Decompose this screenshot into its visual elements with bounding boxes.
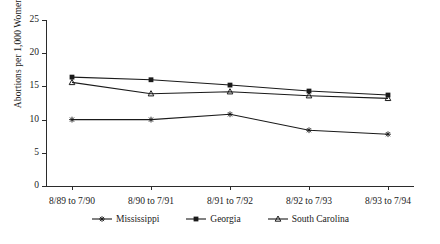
data-point xyxy=(227,111,233,117)
y-tick-label: 25 xyxy=(30,15,40,25)
legend-item-georgia[interactable]: Georgia xyxy=(185,214,240,224)
data-point xyxy=(148,117,154,123)
series-mississippi xyxy=(69,111,391,137)
y-tick-label: 15 xyxy=(30,81,40,91)
x-tick-mark xyxy=(230,186,231,190)
data-point xyxy=(69,79,75,84)
x-tick-label: 8/91 to 7/92 xyxy=(207,196,253,206)
series-south-carolina xyxy=(69,79,391,100)
legend-marker-star-icon xyxy=(91,214,113,224)
data-point xyxy=(385,131,391,137)
y-tick-label: 10 xyxy=(30,115,40,125)
y-axis-title: Abortions per 1,000 Women xyxy=(13,0,23,133)
legend-item-south-carolina[interactable]: South Carolina xyxy=(267,214,349,224)
y-tick-label: 0 xyxy=(34,181,39,191)
y-tick-mark xyxy=(42,186,46,187)
legend-marker-square-icon xyxy=(185,214,207,224)
x-tick-mark xyxy=(151,186,152,190)
x-tick-label: 8/90 to 7/91 xyxy=(128,196,174,206)
x-tick-label: 8/89 to 7/90 xyxy=(49,196,95,206)
legend-label: Mississippi xyxy=(116,214,159,224)
data-point xyxy=(69,117,75,123)
chart-figure: Abortions per 1,000 Women 0510152025 8/8… xyxy=(0,0,440,244)
y-tick-label: 5 xyxy=(34,148,39,158)
series-plot xyxy=(46,20,414,186)
series-line xyxy=(72,114,388,134)
legend-label: South Carolina xyxy=(292,214,349,224)
y-tick-label: 20 xyxy=(30,48,40,58)
data-point xyxy=(149,77,154,82)
plot-area: 0510152025 8/89 to 7/908/90 to 7/918/91 … xyxy=(46,20,414,186)
x-tick-mark xyxy=(388,186,389,190)
x-tick-label: 8/92 to 7/93 xyxy=(286,196,332,206)
legend-marker-triangle-icon xyxy=(267,214,289,224)
legend-item-mississippi[interactable]: Mississippi xyxy=(91,214,159,224)
legend-label: Georgia xyxy=(210,214,240,224)
chart-legend: MississippiGeorgiaSouth Carolina xyxy=(0,214,440,224)
data-point xyxy=(306,127,312,133)
x-tick-label: 8/93 to 7/94 xyxy=(365,196,411,206)
x-tick-mark xyxy=(309,186,310,190)
data-point xyxy=(228,83,233,88)
x-tick-mark xyxy=(72,186,73,190)
